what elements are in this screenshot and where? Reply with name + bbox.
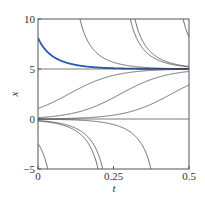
x-tick-label: 0 bbox=[35, 170, 41, 182]
x-tick-label: 0.5 bbox=[182, 170, 196, 182]
y-axis-label: x bbox=[8, 91, 20, 97]
plot-frame bbox=[38, 19, 189, 169]
curve-from-above-2 bbox=[123, 0, 189, 66]
curve-rising-2 bbox=[38, 71, 189, 117]
y-tick-label: −5 bbox=[23, 163, 35, 175]
logistic-solution-chart: 00.250.5−50510 t x bbox=[0, 0, 205, 206]
axis-ticks: 00.250.5−50510 bbox=[23, 13, 196, 182]
x-tick-label: 0.25 bbox=[104, 170, 124, 182]
curve-rising-3 bbox=[38, 85, 189, 119]
curve-from-above-1 bbox=[68, 0, 189, 69]
curve-from-above-2 bbox=[38, 121, 115, 206]
y-tick-label: 5 bbox=[30, 63, 36, 75]
x-axis-label: t bbox=[112, 182, 116, 194]
curve-from-above-1 bbox=[38, 143, 60, 206]
y-tick-label: 10 bbox=[24, 13, 36, 25]
curve-falling-1 bbox=[119, 0, 189, 67]
curve-falling-1 bbox=[38, 121, 110, 206]
curve-highlighted bbox=[38, 38, 189, 69]
curve-falling-2 bbox=[38, 119, 163, 206]
y-tick-label: 0 bbox=[30, 113, 36, 125]
